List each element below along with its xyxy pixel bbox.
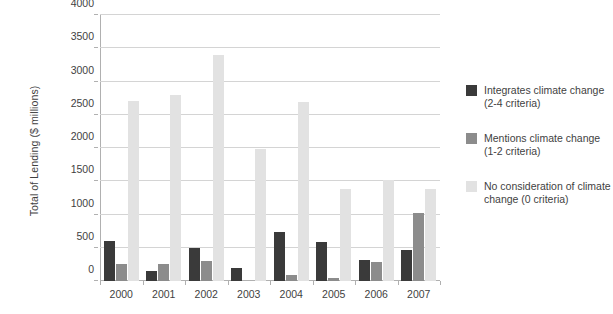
bar-group xyxy=(185,15,228,281)
x-axis-tick-mark xyxy=(143,281,144,285)
bar-chart: Total of Lending ($ millions) 4000350030… xyxy=(0,0,613,314)
chart-legend: Integrates climate change(2-4 criteria)M… xyxy=(466,84,611,228)
legend-label-line: Mentions climate change xyxy=(484,132,600,145)
y-axis-tick-labels: 40003500300025002000150010005000 xyxy=(46,15,94,281)
x-axis-tick-mark xyxy=(313,281,314,285)
y-axis-tick-mark xyxy=(94,47,98,48)
y-axis-tick-mark xyxy=(94,147,98,148)
plot-area xyxy=(100,15,440,281)
bar xyxy=(359,260,370,281)
bar xyxy=(201,261,212,281)
bar xyxy=(401,250,412,281)
bar-group xyxy=(398,15,441,281)
bar xyxy=(116,264,127,281)
y-axis-tick-label: 2500 xyxy=(50,97,94,109)
bar xyxy=(298,102,309,281)
legend-item: Integrates climate change(2-4 criteria) xyxy=(466,84,611,110)
bar-group xyxy=(355,15,398,281)
x-axis-tick-mark xyxy=(185,281,186,285)
y-axis-title: Total of Lending ($ millions) xyxy=(28,41,40,261)
bar xyxy=(413,213,424,281)
bar xyxy=(128,101,139,281)
legend-label: Integrates climate change(2-4 criteria) xyxy=(484,84,604,110)
bar xyxy=(371,262,382,281)
legend-swatch xyxy=(466,85,477,96)
bar xyxy=(231,268,242,281)
bar-group xyxy=(313,15,356,281)
bar xyxy=(255,149,266,281)
y-axis-tick-label: 1000 xyxy=(50,197,94,209)
bar xyxy=(189,248,200,281)
legend-swatch xyxy=(466,133,477,144)
legend-label: No consideration of climatechange (0 cri… xyxy=(484,180,611,206)
legend-label-line: No consideration of climate xyxy=(484,180,611,193)
y-axis-tick-label: 2000 xyxy=(50,130,94,142)
y-axis-tick-label: 1500 xyxy=(50,163,94,175)
bar xyxy=(286,275,297,281)
bar xyxy=(425,189,436,281)
y-axis-tick-label: 4000 xyxy=(50,0,94,9)
legend-item: No consideration of climatechange (0 cri… xyxy=(466,180,611,206)
bar xyxy=(158,264,169,281)
bar-group xyxy=(100,15,143,281)
bar xyxy=(383,180,394,281)
legend-label-line: change (0 criteria) xyxy=(484,193,611,206)
x-axis-tick-mark xyxy=(228,281,229,285)
y-axis-tick-label: 3000 xyxy=(50,64,94,76)
x-axis-tick-mark xyxy=(100,281,101,285)
bar xyxy=(340,189,351,281)
x-axis-tick-mark xyxy=(270,281,271,285)
bar xyxy=(274,232,285,281)
bar xyxy=(328,278,339,281)
y-axis-tick-mark xyxy=(94,81,98,82)
y-axis-tick-mark xyxy=(94,214,98,215)
y-axis-tick-mark xyxy=(94,114,98,115)
y-axis-tick-label: 3500 xyxy=(50,30,94,42)
x-axis-tick-mark xyxy=(440,281,441,285)
bar-group xyxy=(228,15,271,281)
legend-label-line: (1-2 criteria) xyxy=(484,145,600,158)
y-axis-tick-mark xyxy=(94,280,98,281)
legend-label-line: (2-4 criteria) xyxy=(484,97,604,110)
bar-group xyxy=(143,15,186,281)
bar xyxy=(170,95,181,281)
y-axis-tick-mark xyxy=(94,180,98,181)
legend-item: Mentions climate change(1-2 criteria) xyxy=(466,132,611,158)
legend-label-line: Integrates climate change xyxy=(484,84,604,97)
x-axis-tick-mark xyxy=(398,281,399,285)
bar xyxy=(316,242,327,281)
x-axis-tick-label: 2007 xyxy=(389,288,449,300)
y-axis-tick-mark xyxy=(94,247,98,248)
bar xyxy=(146,271,157,281)
bar xyxy=(104,241,115,281)
legend-label: Mentions climate change(1-2 criteria) xyxy=(484,132,600,158)
bar-group xyxy=(270,15,313,281)
y-axis-tick-mark xyxy=(94,14,98,15)
y-axis-tick-label: 0 xyxy=(50,263,94,275)
x-axis-tick-mark xyxy=(355,281,356,285)
legend-swatch xyxy=(466,181,477,192)
y-axis-tick-label: 500 xyxy=(50,230,94,242)
bar xyxy=(213,55,224,281)
